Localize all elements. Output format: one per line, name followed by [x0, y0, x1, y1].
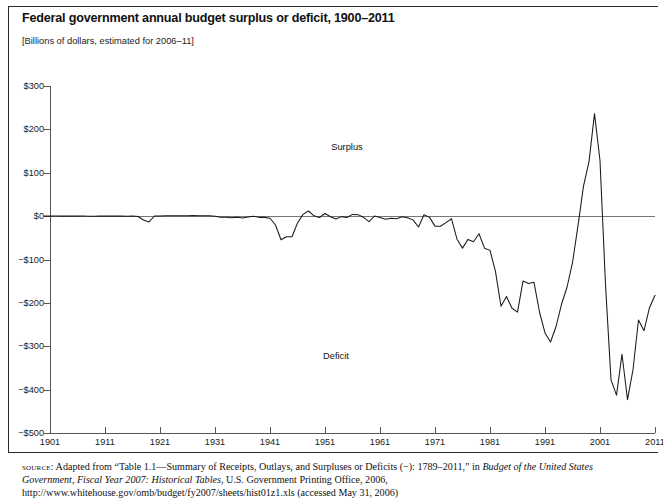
source-label: source: — [22, 462, 54, 472]
source-text-1: Adapted from “Table 1.1—Summary of Recei… — [54, 461, 483, 472]
annotation-deficit: Deficit — [323, 351, 349, 361]
figure-container: Federal government annual budget surplus… — [0, 0, 663, 501]
series-line-surplus-deficit — [45, 114, 656, 400]
source-note: source: Adapted from “Table 1.1—Summary … — [22, 460, 644, 499]
chart-series-layer — [0, 0, 663, 501]
annotation-surplus: Surplus — [331, 142, 363, 152]
